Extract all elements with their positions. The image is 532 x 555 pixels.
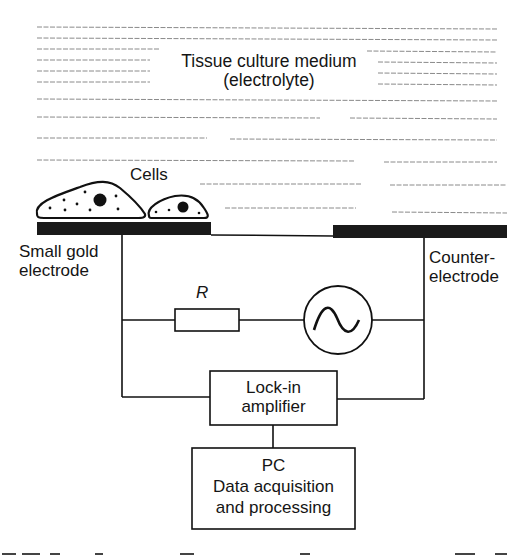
medium-label: Tissue culture medium (electrolyte) [160,52,378,90]
medium-label-line2: (electrolyte) [160,71,378,90]
counter-electrode [333,225,507,238]
small-electrode-label-line1: Small gold [19,242,98,261]
small-electrode-label-line2: electrode [19,261,98,280]
pc-label-line2: Data acquisition [192,476,355,497]
ac-source-icon [304,286,372,354]
lockin-label-line2: amplifier [210,397,337,416]
pc-label-line1: PC [192,455,355,476]
small-electrode-label: Small gold electrode [19,242,98,280]
cell-small [149,196,208,219]
substrate-line [211,235,333,236]
medium-label-line1: Tissue culture medium [160,52,378,71]
counter-electrode-label: Counter- electrode [429,248,499,286]
counter-electrode-label-line2: electrode [429,267,499,286]
small-gold-electrode [37,222,211,235]
counter-electrode-label-line1: Counter- [429,248,499,267]
cell-nucleus-icon [94,194,107,207]
resistor-icon [175,309,239,331]
resistor-label: R [196,283,208,302]
cells-label: Cells [130,165,168,184]
pc-label: PC Data acquisition and processing [192,455,355,518]
lockin-label-line1: Lock-in [210,378,337,397]
pc-label-line3: and processing [192,497,355,518]
cell-nucleus-icon [178,202,189,213]
cell-large [37,182,145,218]
lockin-amplifier-label: Lock-in amplifier [210,378,337,416]
